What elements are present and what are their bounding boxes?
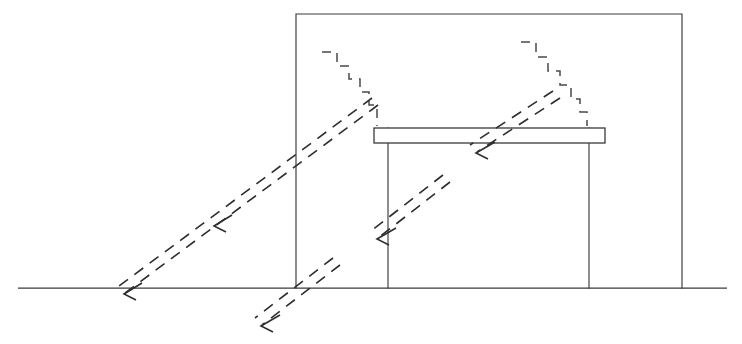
section-drawing	[0, 0, 742, 344]
right-stepped-ray-path	[521, 42, 587, 126]
light-shelf	[374, 128, 605, 143]
interior-bounce-ray	[371, 175, 450, 245]
reflected-ray-to-floor-outer	[255, 258, 340, 332]
incoming-ray-exterior	[119, 98, 378, 300]
under-shelf-ray	[470, 91, 560, 159]
building-outline	[296, 14, 682, 288]
diagram-canvas	[0, 0, 742, 344]
